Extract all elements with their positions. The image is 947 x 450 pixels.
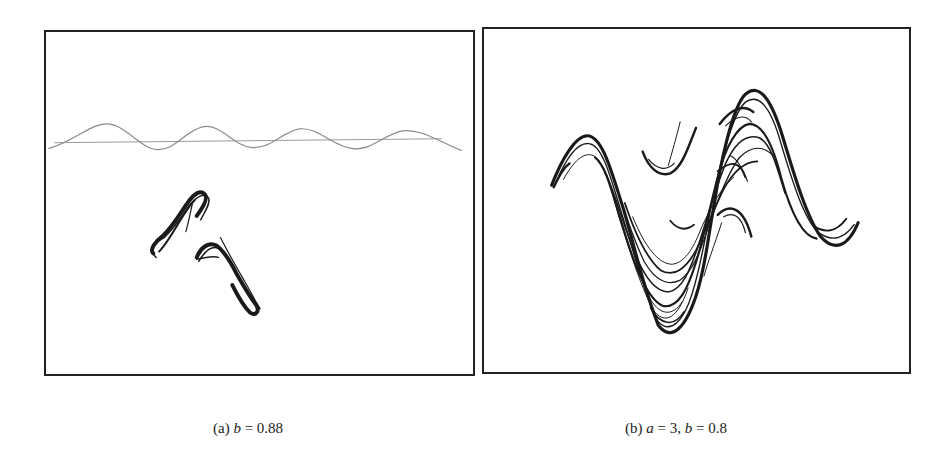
caption-a-prefix: (a) (213, 420, 233, 436)
caption-panel-b: (b) a = 3, b = 0.8 (625, 420, 727, 437)
panel-a-attractor-plot (44, 30, 475, 376)
attractor-a-graphic (46, 32, 473, 374)
caption-b-value-b: = 0.8 (692, 420, 727, 436)
caption-panel-a: (a) b = 0.88 (213, 420, 283, 437)
caption-b-prefix: (b) (625, 420, 646, 436)
caption-b-variable-a: a (646, 420, 654, 436)
caption-a-value: = 0.88 (241, 420, 283, 436)
panel-b-attractor-plot (482, 27, 911, 374)
attractor-b-graphic (484, 29, 909, 372)
caption-a-variable-b: b (233, 420, 241, 436)
caption-b-value-a: = 3, (654, 420, 685, 436)
